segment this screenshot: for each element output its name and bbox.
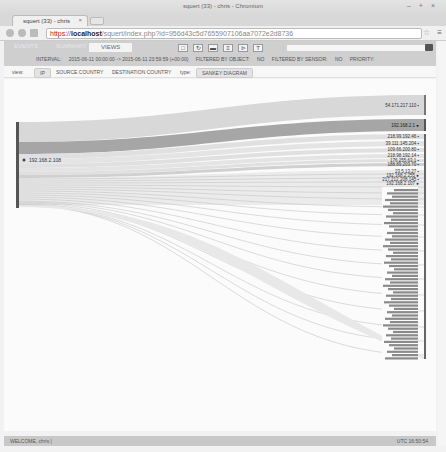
comment-icon[interactable]: ▬ — [208, 44, 218, 52]
filter-icon[interactable]: T — [253, 44, 263, 52]
tab-close-icon[interactable]: × — [78, 17, 82, 23]
app-header: EVENTS SUMMARY VIEWS □ ↻ ▬ ≡ ⊳ T INTERVA… — [4, 41, 436, 66]
bookmark-star-icon[interactable]: ☆ — [423, 28, 430, 37]
target-node-label: 39.111.145.204 ▪ — [386, 141, 420, 146]
source-node-label: 192.168.2.108 — [29, 157, 61, 163]
target-node-label: 218.99.192.46 ▪ — [387, 134, 419, 139]
interval-info: INTERVAL: 2015-06-11 00:00:00 -> 2015-06… — [36, 56, 381, 62]
browser-tab[interactable]: squert (33) - chris × — [12, 15, 88, 26]
target-node-label: 109.66.200.80 ▪ — [387, 147, 419, 152]
address-path: /squert/index.php?id=956d43c5d7655907106… — [102, 30, 293, 37]
view-label: view: — [12, 69, 23, 75]
filtered-object-value: NO — [257, 56, 265, 62]
browser-navbar: https://localhost/squert/index.php?id=95… — [0, 26, 446, 41]
back-icon[interactable] — [6, 29, 14, 37]
clock-text: UTC 16:50:54 — [397, 438, 428, 444]
type-label: type: — [180, 69, 191, 75]
tab-summary[interactable]: SUMMARY — [56, 43, 87, 52]
target-node-bars[interactable] — [424, 134, 426, 359]
menu-icon[interactable]: ≡ — [437, 28, 442, 37]
window-title: squert (33) - chris - Chromium — [0, 3, 446, 9]
target-node-bar[interactable] — [424, 95, 426, 115]
window-controls[interactable]: – + × — [407, 2, 438, 9]
address-host: localhost — [71, 30, 102, 37]
list-icon[interactable]: ≡ — [223, 44, 233, 52]
tab-views[interactable]: VIEWS — [89, 43, 132, 52]
filtered-sensor-label: FILTERED BY SENSOR: — [272, 56, 328, 62]
square-icon[interactable]: □ — [178, 44, 188, 52]
window-titlebar: squert (33) - chris - Chromium – + × — [0, 0, 446, 14]
welcome-text: WELCOME, chris | — [10, 438, 52, 444]
source-node-bar[interactable] — [16, 122, 19, 208]
refresh-icon[interactable]: ↻ — [193, 44, 203, 52]
reload-icon[interactable] — [30, 29, 38, 37]
tab-events[interactable]: EVENTS — [14, 43, 38, 52]
interval-label: INTERVAL: — [36, 56, 61, 62]
filtered-object-label: FILTERED BY OBJECT: — [196, 56, 250, 62]
status-bar: WELCOME, chris | UTC 16:50:54 — [4, 436, 436, 446]
view-option-destination-country[interactable]: DESTINATION COUNTRY — [112, 69, 171, 75]
priority-label: PRIORITY: — [350, 56, 375, 62]
target-node-label: 54.171.217.110 ▪ — [385, 103, 419, 108]
filtered-sensor-value: NO — [335, 56, 343, 62]
address-bar[interactable]: https://localhost/squert/index.php?id=95… — [46, 28, 422, 39]
view-option-source-country[interactable]: SOURCE COUNTRY — [56, 69, 103, 75]
forward-icon[interactable] — [18, 29, 26, 37]
interval-value[interactable]: 2015-06-11 00:00:00 -> 2015-06-11 23:59:… — [69, 56, 189, 62]
view-option-ip[interactable]: IP — [34, 68, 51, 78]
target-node-label: 192.168.2.1 ● — [391, 123, 419, 128]
target-node-bar[interactable] — [424, 119, 426, 131]
tab-label: squert (33) - chris — [23, 18, 70, 24]
page-scrollbar[interactable] — [438, 41, 446, 446]
tab-strip: squert (33) - chris × — [0, 14, 446, 26]
https-scheme: https:// — [50, 30, 71, 37]
search-button[interactable] — [425, 44, 433, 51]
search-input[interactable] — [287, 45, 425, 51]
view-options-bar: view: IP SOURCE COUNTRY DESTINATION COUN… — [4, 66, 436, 78]
sankey-diagram[interactable]: 192.168.2.108 54.171.217.110 ▪ 192.168.2… — [4, 79, 436, 431]
target-node-label: 188.89.203.70 ▪ — [387, 162, 419, 167]
type-sankey-diagram[interactable]: SANKEY DIAGRAM — [196, 68, 253, 78]
tree-icon[interactable]: ⊳ — [238, 44, 248, 52]
sankey-canvas: 192.168.2.108 54.171.217.110 ▪ 192.168.2… — [4, 79, 436, 431]
target-node-label: 192.168.2.107 ● — [386, 181, 419, 186]
new-tab-button[interactable] — [90, 17, 104, 25]
flag-icon — [23, 159, 26, 162]
